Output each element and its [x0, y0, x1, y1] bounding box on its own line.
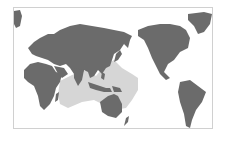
world-map [14, 8, 213, 129]
land-madagascar [55, 92, 59, 102]
land-greenland-west [14, 10, 22, 28]
land-new-zealand [124, 116, 129, 126]
land-greenland [188, 12, 212, 34]
land-south-america [178, 80, 206, 128]
land-north-america [138, 24, 190, 80]
map-frame [13, 7, 213, 129]
